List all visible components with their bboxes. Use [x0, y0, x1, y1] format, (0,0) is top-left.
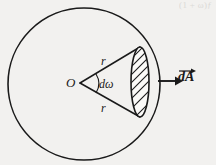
- center-label-O: O: [66, 76, 75, 89]
- radius-label-top: r: [101, 55, 106, 67]
- solid-angle-label: dω: [99, 78, 113, 90]
- radius-label-bottom: r: [101, 102, 106, 114]
- area-vector-label: dA: [178, 70, 194, 84]
- solid-angle-figure: (1 + ω)ƒ: [0, 0, 216, 165]
- vector-arrow-accent-icon: [179, 67, 196, 73]
